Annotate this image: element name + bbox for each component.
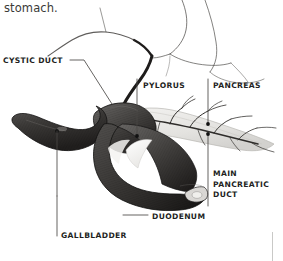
anatomy-figure: stomach. CYSTIC DUCT PYLORUS PANCREAS MA… (0, 0, 283, 261)
label-cystic-duct: CYSTIC DUCT (3, 56, 63, 67)
page-edge-rule (272, 232, 273, 261)
label-gallbladder: GALLBLADDER (61, 231, 127, 242)
gallbladder-organ (12, 106, 107, 151)
label-pylorus: PYLORUS (143, 81, 185, 92)
label-main-pancreatic-duct-line3: DUCT (213, 190, 269, 201)
label-main-pancreatic-duct-line1: MAIN (213, 169, 269, 180)
label-main-pancreatic-duct-line2: PANCREATIC (213, 180, 269, 191)
label-duodenum: DUODENUM (152, 212, 205, 223)
body-caption-text: stomach. (4, 1, 58, 15)
label-main-pancreatic-duct: MAIN PANCREATIC DUCT (213, 169, 269, 201)
label-pancreas: PANCREAS (213, 81, 261, 92)
anatomy-illustration (0, 0, 283, 261)
